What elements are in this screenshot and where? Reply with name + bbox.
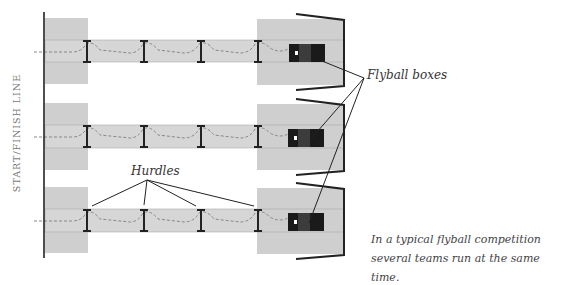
lane-3: [34, 183, 344, 259]
flyball-box: [288, 213, 324, 231]
hurdles-label: Hurdles: [131, 164, 180, 178]
caption-line-2: several teams run at the same time.: [371, 249, 571, 285]
flyball-box: [289, 44, 325, 62]
flyball-box: [288, 129, 324, 147]
lane-2: [34, 99, 344, 175]
caption: In a typical flyball competition several…: [371, 230, 571, 285]
start-finish-line-label: START/FINISH LINE: [11, 63, 25, 203]
hurdles-leaders: [92, 180, 254, 206]
flyball-boxes-label: Flyball boxes: [367, 68, 447, 82]
lane-1: [34, 14, 344, 90]
caption-line-1: In a typical flyball competition: [371, 230, 571, 249]
